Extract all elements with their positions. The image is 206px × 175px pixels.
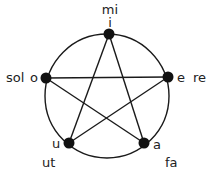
edge-o-e bbox=[46, 77, 168, 78]
node-u bbox=[64, 138, 75, 149]
syllable-ut: ut bbox=[42, 155, 55, 170]
outer-circle bbox=[45, 34, 169, 158]
vowel-e: e bbox=[177, 70, 185, 85]
node-e bbox=[163, 72, 174, 83]
pentagram-diagram: mi i e re a fa u ut o sol bbox=[0, 0, 206, 175]
syllable-sol: sol bbox=[6, 70, 24, 85]
edge-e-u bbox=[69, 77, 168, 143]
syllable-re: re bbox=[193, 70, 206, 85]
syllable-fa: fa bbox=[165, 155, 178, 170]
vowel-a: a bbox=[153, 137, 161, 152]
vowel-i: i bbox=[108, 15, 112, 30]
edge-i-a bbox=[109, 34, 144, 143]
nodes bbox=[41, 29, 174, 149]
edge-a-o bbox=[46, 78, 144, 143]
edge-u-i bbox=[69, 34, 109, 143]
vowel-o: o bbox=[30, 70, 38, 85]
vowel-u: u bbox=[52, 136, 60, 151]
node-a bbox=[139, 138, 150, 149]
node-i bbox=[104, 29, 115, 40]
node-o bbox=[41, 73, 52, 84]
